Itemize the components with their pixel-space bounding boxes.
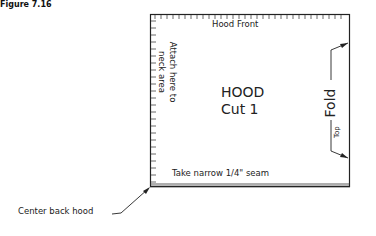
callout-leader: [112, 189, 148, 214]
hood-front-label: Hood Front: [212, 19, 258, 29]
center-back-hood-label: Center back hood: [18, 206, 93, 216]
pattern-title: HOOD Cut 1: [221, 84, 264, 118]
attach-line-1: Attach here to: [167, 32, 178, 112]
fold-label: Fold: [322, 89, 338, 118]
attach-neck-label: Attach here to neck area: [156, 32, 178, 112]
pattern-title-line-1: HOOD: [221, 84, 264, 101]
fold-arrow-top-icon: [340, 43, 348, 48]
hood-pattern-diagram: [0, 0, 376, 236]
seam-label: Take narrow 1/4" seam: [172, 168, 269, 178]
fold-arrow-bottom-icon: [340, 153, 348, 158]
attach-line-2: neck area: [156, 32, 167, 112]
pattern-title-line-2: Cut 1: [221, 101, 264, 118]
top-label: Top: [333, 126, 341, 138]
